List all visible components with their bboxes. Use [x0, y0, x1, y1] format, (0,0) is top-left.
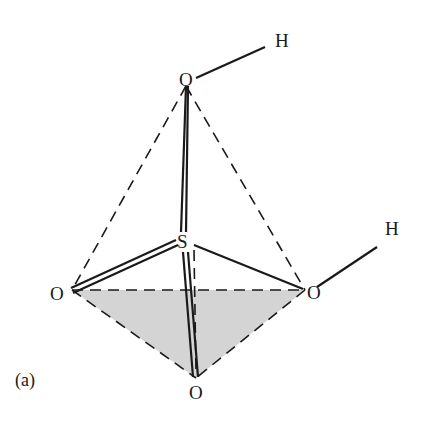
- atom-o-top: O: [179, 70, 193, 89]
- tetrahedron-diagram: [0, 0, 425, 430]
- atom-o-left: O: [50, 284, 64, 303]
- atom-o-bottom: O: [189, 383, 203, 402]
- atom-h-right: H: [385, 219, 399, 238]
- figure-caption: (a): [15, 371, 35, 389]
- atom-o-right: O: [307, 283, 321, 302]
- atom-h-top: H: [275, 31, 289, 50]
- atom-s-center: S: [177, 232, 188, 251]
